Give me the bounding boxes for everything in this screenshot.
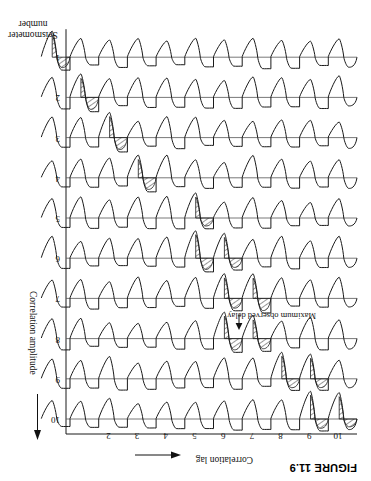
trace-row <box>41 155 357 192</box>
correlation-trace-line <box>41 312 357 352</box>
trace-row <box>41 274 357 313</box>
trace-row <box>41 112 357 152</box>
trace-row <box>41 391 357 431</box>
trace-row <box>41 352 357 390</box>
trace-row <box>41 193 357 229</box>
figure-plate: FIGURE 11.9 Correlation lag Correlation … <box>0 0 371 481</box>
correlation-trace-line <box>41 274 357 313</box>
trace-row <box>41 74 357 112</box>
correlation-trace-line <box>41 112 357 152</box>
trace-row <box>41 312 357 352</box>
trace-row <box>41 31 357 70</box>
correlation-traces-plot <box>0 0 371 481</box>
correlation-trace-line <box>41 391 357 431</box>
correlation-trace-line <box>41 31 357 70</box>
correlation-trace-line <box>41 352 357 390</box>
correlation-trace-line <box>41 193 357 229</box>
correlation-trace-line <box>41 155 357 192</box>
trace-row <box>41 231 357 272</box>
